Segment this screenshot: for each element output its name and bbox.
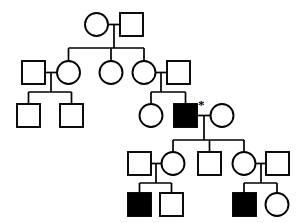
individual-I-1-female-unaffected[interactable]: [85, 13, 108, 36]
individual-II-3-female-unaffected[interactable]: [100, 61, 123, 84]
individual-III-2-male-unaffected[interactable]: [60, 104, 83, 127]
individual-IV-1-male-unaffected[interactable]: [128, 152, 151, 175]
individual-III-4-female-unaffected[interactable]: [211, 104, 234, 127]
generation-I-group: [69, 13, 145, 61]
individual-II-5-male-unaffected[interactable]: [167, 61, 190, 84]
individual-V-2-male-unaffected[interactable]: [160, 193, 183, 216]
individual-V-3-male-affected[interactable]: [233, 193, 256, 216]
individual-IV-3-male-unaffected[interactable]: [198, 152, 221, 175]
individual-III-2b-female-unaffected[interactable]: [140, 104, 163, 127]
generation-III-group: *: [17, 97, 244, 152]
individual-V-4-female-unaffected[interactable]: [266, 193, 289, 216]
individual-V-1-male-affected[interactable]: [128, 193, 151, 216]
generation-II-group: [22, 61, 190, 104]
individual-II-4-female-unaffected[interactable]: [133, 61, 156, 84]
individual-IV-5-male-unaffected[interactable]: [266, 152, 289, 175]
generation-V-group: [128, 193, 289, 216]
individual-I-2-male-unaffected[interactable]: [120, 13, 143, 36]
pedigree-canvas: *: [0, 0, 305, 223]
individual-IV-2-female-unaffected[interactable]: [162, 152, 185, 175]
individual-II-1-male-unaffected[interactable]: [22, 61, 45, 84]
individual-IV-4-female-unaffected[interactable]: [233, 152, 256, 175]
pedigree-chart: *: [0, 0, 305, 223]
individual-II-2-female-unaffected[interactable]: [57, 61, 80, 84]
generation-IV-group: [128, 152, 289, 193]
proband-asterisk-icon: *: [198, 97, 205, 112]
individual-III-1-male-unaffected[interactable]: [17, 104, 40, 127]
individual-III-3-male-affected-proband[interactable]: [174, 104, 197, 127]
